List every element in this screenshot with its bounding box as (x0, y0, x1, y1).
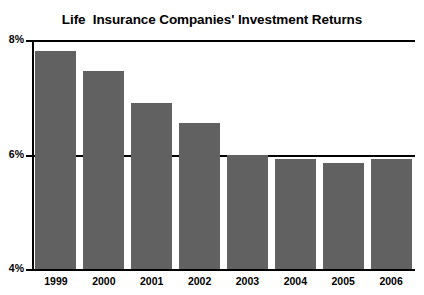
bar-2005 (323, 163, 364, 269)
y-axis-label: 6% (0, 148, 24, 160)
plot-area (32, 40, 415, 269)
x-axis-label-1999: 1999 (35, 275, 76, 287)
y-tick-mark (26, 155, 32, 157)
bar-2003 (227, 155, 268, 270)
x-axis-label-2006: 2006 (371, 275, 412, 287)
bar-2002 (179, 123, 220, 269)
y-tick-mark (26, 40, 32, 42)
x-axis-label-2005: 2005 (323, 275, 364, 287)
x-axis-label-2004: 2004 (275, 275, 316, 287)
bar-2006 (371, 159, 412, 269)
chart-title: Life Insurance Companies' Investment Ret… (0, 12, 424, 27)
y-tick-mark (26, 269, 32, 271)
bar-2004 (275, 159, 316, 269)
x-axis-label-2003: 2003 (227, 275, 268, 287)
x-axis-label-2000: 2000 (83, 275, 124, 287)
bar-2000 (83, 71, 124, 269)
chart-figure: Life Insurance Companies' Investment Ret… (0, 0, 424, 295)
y-axis-label: 4% (0, 262, 24, 274)
x-axis-label-2002: 2002 (179, 275, 220, 287)
gridline-4pct (32, 269, 415, 271)
y-axis-label: 8% (0, 33, 24, 45)
bar-2001 (131, 103, 172, 269)
bar-1999 (35, 51, 76, 269)
x-axis-label-2001: 2001 (131, 275, 172, 287)
gridline-8pct (32, 40, 415, 42)
